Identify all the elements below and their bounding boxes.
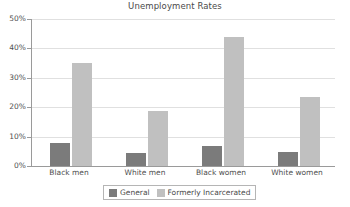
x-tick-label: Black men	[31, 168, 107, 177]
legend-label: Formerly Incarcerated	[168, 188, 251, 197]
bar-formerly	[300, 97, 320, 166]
y-tick-label: 30%	[0, 73, 26, 82]
unemployment-rates-chart: Unemployment Rates 0%10%20%30%40%50% Bla…	[0, 0, 350, 207]
bar-general	[126, 153, 146, 166]
legend-swatch-icon	[157, 189, 165, 197]
bar-general	[50, 143, 70, 166]
bar-general	[202, 146, 222, 166]
legend-swatch-icon	[109, 189, 117, 197]
x-tick-label: White men	[107, 168, 183, 177]
x-axis-category-labels: Black menWhite menBlack womenWhite women	[31, 167, 335, 181]
bar-formerly	[224, 37, 244, 166]
bar-formerly	[148, 111, 168, 166]
y-tick-label: 20%	[0, 102, 26, 111]
y-tick-label: 10%	[0, 132, 26, 141]
x-tick-label: White women	[259, 168, 335, 177]
chart-legend: GeneralFormerly Incarcerated	[103, 185, 256, 200]
legend-label: General	[120, 188, 150, 197]
bar-formerly	[72, 63, 92, 166]
bar-general	[278, 152, 298, 166]
y-tick-label: 50%	[0, 14, 26, 23]
bar-series-layer	[31, 19, 335, 166]
legend-item[interactable]: Formerly Incarcerated	[157, 188, 251, 197]
x-tick-label: Black women	[183, 168, 259, 177]
legend-item[interactable]: General	[109, 188, 150, 197]
y-tick-label: 0%	[0, 161, 26, 170]
y-tick-label: 40%	[0, 43, 26, 52]
chart-title: Unemployment Rates	[0, 1, 350, 11]
